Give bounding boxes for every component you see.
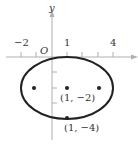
center-point: [65, 86, 69, 90]
y-axis-label: y: [48, 2, 55, 13]
focus-point-left: [32, 86, 36, 90]
ellipse-diagram: y O −2 1 4 (1, −2) (1, −4): [0, 0, 138, 152]
x-axis-arrow-icon: [131, 55, 138, 60]
x-tick-label-4: 4: [110, 37, 116, 48]
x-tick-label-neg2: −2: [14, 37, 29, 48]
center-point-label: (1, −2): [60, 92, 95, 103]
vertex-point-bottom: [65, 116, 69, 120]
focus-point-right: [97, 86, 101, 90]
vertex-point-label: (1, −4): [64, 122, 99, 133]
origin-label: O: [40, 45, 48, 56]
y-ticks: [52, 72, 57, 118]
x-tick-label-1: 1: [64, 37, 70, 48]
